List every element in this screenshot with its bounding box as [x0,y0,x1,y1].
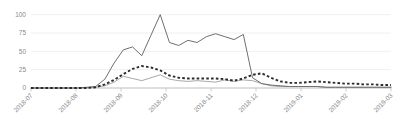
x-tick-label: 2019-01 [282,91,304,113]
y-axis-tick-labels: 0255075100 [15,11,26,91]
x-tick-label: 2018-11 [192,91,214,113]
x-tick-label: 2018-12 [237,91,259,113]
line-chart: 0255075100 2018-072018-082018-092018-102… [0,0,398,128]
x-tick-label: 2018-07 [12,91,34,113]
x-tick-label: 2019-03 [372,91,394,113]
y-tick-label: 100 [15,11,26,18]
y-tick-label: 50 [19,48,27,55]
x-tick-label: 2019-02 [327,91,349,113]
x-tick-label: 2018-10 [147,91,169,113]
y-tick-label: 0 [22,84,26,91]
chart-canvas: 0255075100 2018-072018-082018-092018-102… [0,0,398,128]
x-axis-tick-labels: 2018-072018-082018-092018-102018-112018-… [12,91,394,113]
x-tick-label: 2018-08 [57,91,79,113]
y-tick-label: 75 [19,29,27,36]
y-tick-label: 25 [19,66,27,73]
gridlines-group [31,15,391,88]
series-line-series-3 [31,75,391,88]
x-tick-label: 2018-09 [102,91,124,113]
